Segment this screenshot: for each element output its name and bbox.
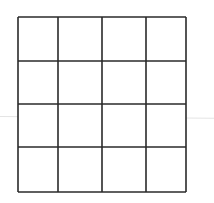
grid-cell — [146, 104, 186, 147]
grid-cell — [58, 147, 102, 192]
grid-cell — [146, 61, 186, 104]
grid-4x4 — [0, 0, 214, 203]
grid-cell — [102, 17, 146, 61]
grid-cell — [102, 61, 146, 104]
grid-cell — [146, 17, 186, 61]
grid-cell — [18, 147, 58, 192]
grid-cell — [18, 104, 58, 147]
grid-cell — [58, 104, 102, 147]
grid-cell — [102, 147, 146, 192]
grid-cell — [18, 61, 58, 104]
grid-cell — [58, 17, 102, 61]
grid-cell — [18, 17, 58, 61]
grid-cell — [58, 61, 102, 104]
grid-cell — [146, 147, 186, 192]
grid-cell — [102, 104, 146, 147]
